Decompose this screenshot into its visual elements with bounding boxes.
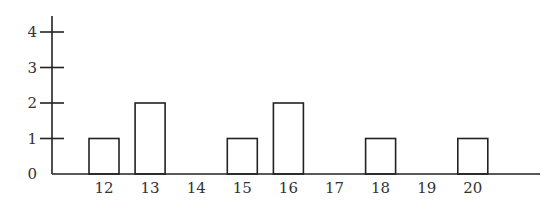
x-tick-label: 14: [187, 179, 206, 197]
x-tick-label: 13: [141, 179, 160, 197]
x-tick-label: 20: [463, 179, 482, 197]
bar-20: [458, 139, 488, 175]
bars-group: [89, 103, 488, 174]
bar-16: [273, 103, 303, 174]
x-tick-label: 15: [233, 179, 252, 197]
bar-chart: 01234 121314151617181920: [0, 0, 557, 205]
y-tick-label: 4: [27, 23, 37, 41]
x-tick-label: 18: [371, 179, 390, 197]
bar-18: [366, 139, 396, 175]
x-tick-label: 16: [279, 179, 298, 197]
y-tick-label: 0: [27, 165, 37, 183]
x-ticks-group: 121314151617181920: [94, 179, 482, 197]
bar-13: [135, 103, 165, 174]
y-ticks-group: 01234: [27, 23, 64, 183]
bar-15: [227, 139, 257, 175]
x-tick-label: 12: [94, 179, 113, 197]
y-tick-label: 2: [27, 94, 37, 112]
x-tick-label: 17: [325, 179, 344, 197]
x-tick-label: 19: [417, 179, 436, 197]
y-tick-label: 3: [27, 59, 37, 77]
bar-12: [89, 139, 119, 175]
y-tick-label: 1: [27, 130, 37, 148]
